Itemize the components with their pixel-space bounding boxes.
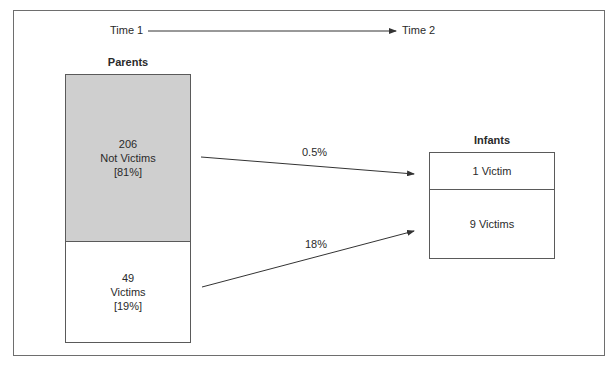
parents-title: Parents bbox=[65, 56, 191, 68]
victims-count: 49 bbox=[122, 271, 134, 285]
victims-percent: [19%] bbox=[114, 299, 142, 313]
infants-victim-segment: 1 Victim bbox=[430, 153, 554, 190]
infants-victims-segment: 9 Victims bbox=[430, 190, 554, 258]
arrow-not-victims-to-infant-victim bbox=[201, 157, 414, 174]
infants-title: Infants bbox=[429, 134, 555, 146]
victims-label: Victims bbox=[110, 285, 145, 299]
infant-victims-label: 9 Victims bbox=[470, 217, 514, 231]
not-victims-label: Not Victims bbox=[100, 151, 155, 165]
not-victims-percent: [81%] bbox=[114, 165, 142, 179]
parents-victims-segment: 49 Victims [19%] bbox=[66, 242, 190, 342]
infants-box: 1 Victim 9 Victims bbox=[429, 152, 555, 259]
parents-box: 206 Not Victims [81%] 49 Victims [19%] bbox=[65, 74, 191, 343]
not-victims-count: 206 bbox=[119, 137, 137, 151]
upper-arrow-label: 0.5% bbox=[302, 146, 327, 158]
time-1-label: Time 1 bbox=[110, 24, 143, 36]
parents-not-victims-segment: 206 Not Victims [81%] bbox=[66, 75, 190, 242]
lower-arrow-label: 18% bbox=[305, 238, 327, 250]
time-2-label: Time 2 bbox=[402, 24, 435, 36]
infant-victim-label: 1 Victim bbox=[473, 164, 512, 178]
